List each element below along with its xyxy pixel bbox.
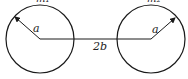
left-mass-label: m₁ — [36, 0, 50, 4]
separation-label: 2b — [92, 40, 107, 53]
right-mass-label: m₂ — [147, 0, 161, 4]
left-radius-label: a — [33, 22, 40, 35]
right-radius-label: a — [152, 23, 159, 36]
two-circles-diagram: m₁ m₂ a a 2b — [0, 0, 188, 79]
